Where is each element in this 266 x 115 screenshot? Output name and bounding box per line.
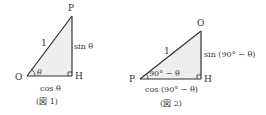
fig2-cos-label: cos (90° − θ): [145, 85, 198, 95]
fig2-vertex-h: H: [204, 74, 212, 84]
fig1-sin-label: sin θ: [74, 42, 93, 52]
fig1-vertex-o: O: [15, 72, 22, 82]
fig2-vertex-p: P: [129, 74, 135, 84]
fig1-vertex-p: P: [68, 3, 74, 13]
fig1-hypotenuse-label: 1: [41, 38, 47, 48]
fig2-angle-label: 90° − θ: [149, 69, 180, 79]
fig1-vertex-h: H: [75, 71, 83, 81]
fig2-vertex-o: O: [197, 18, 204, 28]
fig2-hypotenuse-label: 1: [164, 46, 170, 56]
figure1-triangle: [27, 16, 72, 76]
fig1-angle-label: θ: [37, 68, 42, 78]
fig2-sin-label: sin (90° − θ): [204, 50, 255, 60]
fig2-caption: (図 2): [160, 99, 182, 109]
fig1-cos-label: cos θ: [40, 84, 61, 94]
fig1-caption: (図 1): [36, 97, 58, 107]
